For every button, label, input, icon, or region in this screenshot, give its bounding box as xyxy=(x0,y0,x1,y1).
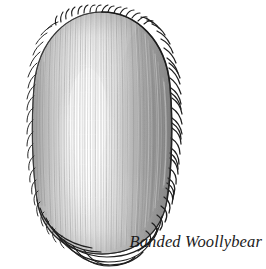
woollybear-figure xyxy=(0,0,266,269)
illustration-plate: Banded Woollybear xyxy=(0,0,266,269)
